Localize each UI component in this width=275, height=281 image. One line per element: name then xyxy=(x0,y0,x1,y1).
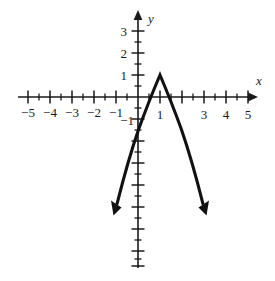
x-tick-label-4: 4 xyxy=(223,107,230,122)
graph-figure: −5 −4 −3 −2 −1 1 3 4 5 3 2 1 −1 x y xyxy=(0,0,275,281)
x-tick-label-5: 5 xyxy=(245,107,252,122)
x-tick-label--3: −3 xyxy=(65,105,79,120)
y-tick-label-2: 2 xyxy=(121,46,128,61)
y-axis-arrow-icon xyxy=(134,10,143,20)
y-tick-label-1: 1 xyxy=(121,68,128,83)
x-tick-label-1: 1 xyxy=(157,107,164,122)
y-tick-label-3: 3 xyxy=(121,24,128,39)
x-axis-arrow-icon xyxy=(248,93,258,102)
x-axis-label: x xyxy=(255,73,262,88)
x-tick-label--4: −4 xyxy=(43,105,57,120)
x-tick-label-3: 3 xyxy=(201,107,208,122)
y-tick-label--1: −1 xyxy=(120,113,134,128)
x-tick-label--5: −5 xyxy=(21,105,35,120)
y-axis-label: y xyxy=(146,11,154,26)
x-tick-label--2: −2 xyxy=(87,105,101,120)
coordinate-plane: −5 −4 −3 −2 −1 1 3 4 5 3 2 1 −1 x y xyxy=(0,0,275,281)
